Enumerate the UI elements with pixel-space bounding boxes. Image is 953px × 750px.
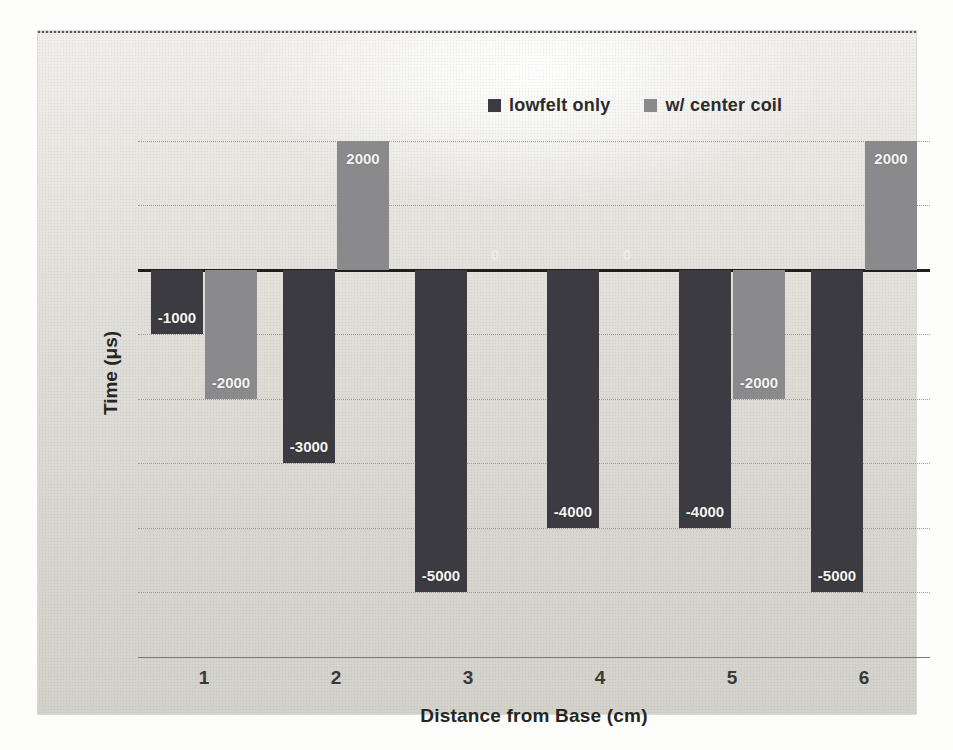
x-axis-tick-labels: 123456 <box>138 667 930 693</box>
gridline <box>138 592 930 593</box>
chart-frame: lowfelt only w/ center coil Time (μs) -1… <box>38 31 916 714</box>
legend-item-lowfelt-only: lowfelt only <box>488 95 610 116</box>
x-tick-label-2: 2 <box>270 667 402 689</box>
bar-label: 0 <box>463 246 527 263</box>
bar-label: -4000 <box>673 503 737 520</box>
bar-label: -4000 <box>541 503 605 520</box>
gridline <box>138 205 930 206</box>
x-axis-title: Distance from Base (cm) <box>138 705 930 727</box>
bar-label: -5000 <box>409 567 473 584</box>
legend-label-center-coil: w/ center coil <box>665 95 782 116</box>
bar-series1-cat3 <box>415 270 467 593</box>
bar-series1-cat4 <box>547 270 599 528</box>
x-tick-label-4: 4 <box>534 667 666 689</box>
gridline <box>138 141 930 142</box>
plot-area: -1000-3000-5000-4000-4000-5000-200020000… <box>138 76 930 657</box>
gridline <box>138 657 930 658</box>
x-tick-label-3: 3 <box>402 667 534 689</box>
bar-series1-cat2 <box>283 270 335 464</box>
legend-swatch-lowfelt-only-icon <box>488 99 501 112</box>
bar-label: 0 <box>595 246 659 263</box>
bar-series1-cat6 <box>811 270 863 593</box>
x-tick-label-1: 1 <box>138 667 270 689</box>
bar-label: -1000 <box>145 309 209 326</box>
bar-label: -3000 <box>277 438 341 455</box>
legend: lowfelt only w/ center coil <box>488 95 782 116</box>
legend-item-center-coil: w/ center coil <box>644 95 782 116</box>
scanned-page: { "chart_data": { "type": "bar", "title"… <box>0 0 953 750</box>
bar-series1-cat5 <box>679 270 731 528</box>
x-tick-label-6: 6 <box>798 667 930 689</box>
bar-label: -2000 <box>199 374 263 391</box>
legend-label-lowfelt-only: lowfelt only <box>509 95 610 116</box>
x-tick-label-5: 5 <box>666 667 798 689</box>
bar-label: -5000 <box>805 567 869 584</box>
bar-label: 2000 <box>859 150 923 167</box>
bar-label: 2000 <box>331 150 395 167</box>
legend-swatch-center-coil-icon <box>644 99 657 112</box>
bar-label: -2000 <box>727 374 791 391</box>
